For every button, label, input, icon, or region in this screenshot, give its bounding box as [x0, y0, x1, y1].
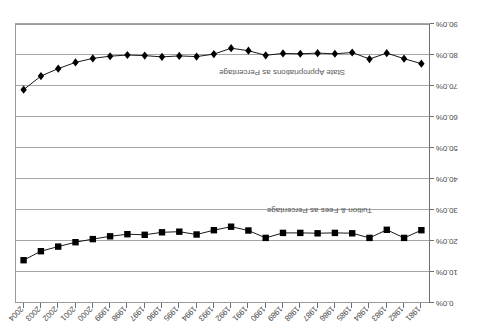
data-point-marker — [159, 53, 165, 61]
data-point-marker — [141, 52, 147, 60]
data-point-marker — [55, 65, 61, 73]
data-point-marker — [107, 233, 113, 239]
data-point-marker — [401, 235, 407, 241]
series-line-tuition — [24, 227, 422, 261]
data-point-marker — [55, 243, 61, 249]
data-point-marker — [38, 72, 44, 80]
data-point-marker — [314, 230, 320, 236]
data-point-marker — [349, 230, 355, 236]
data-point-marker — [124, 231, 130, 237]
data-point-marker — [332, 230, 338, 236]
data-point-marker — [263, 235, 269, 241]
data-point-marker — [401, 55, 407, 63]
data-point-marker — [176, 52, 182, 60]
data-point-marker — [38, 248, 44, 254]
data-point-marker — [20, 86, 26, 94]
data-point-marker — [280, 230, 286, 236]
data-point-marker — [366, 235, 372, 241]
series-label-tuition: Tuition & Fees as Percentage — [267, 206, 372, 215]
data-point-marker — [211, 227, 217, 233]
data-point-marker — [384, 227, 390, 233]
data-point-marker — [193, 231, 199, 237]
data-point-marker — [72, 239, 78, 245]
data-point-marker — [107, 52, 113, 60]
data-point-marker — [142, 232, 148, 238]
data-point-marker — [176, 229, 182, 235]
data-point-marker — [193, 52, 199, 60]
data-point-marker — [20, 257, 26, 263]
data-point-marker — [384, 49, 390, 57]
series-label-state: State Appropriations as Percentage — [219, 68, 345, 77]
data-point-marker — [245, 227, 251, 233]
data-point-marker — [418, 60, 424, 68]
data-point-marker — [211, 50, 217, 58]
data-point-marker — [297, 230, 303, 236]
data-point-marker — [90, 54, 96, 62]
data-point-marker — [418, 227, 424, 233]
data-point-marker — [366, 55, 372, 63]
data-point-marker — [263, 51, 269, 59]
data-point-marker — [228, 224, 234, 230]
data-point-marker — [332, 50, 338, 58]
data-point-marker — [228, 44, 234, 52]
data-point-marker — [159, 229, 165, 235]
data-point-marker — [90, 236, 96, 242]
data-point-marker — [72, 58, 78, 66]
data-point-marker — [245, 47, 251, 55]
data-point-marker — [297, 50, 303, 58]
data-point-marker — [314, 49, 320, 57]
data-point-marker — [280, 49, 286, 57]
data-point-marker — [349, 48, 355, 56]
data-point-marker — [124, 51, 130, 59]
